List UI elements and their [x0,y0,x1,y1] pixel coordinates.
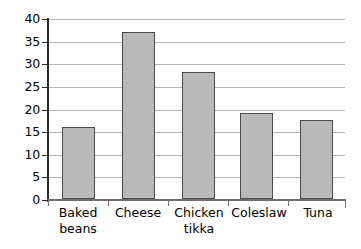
y-axis-label-20: 20 [6,104,40,117]
y-axis-label-35: 35 [6,36,40,49]
bar-baked-beans[interactable] [62,127,95,199]
y-tick-30 [42,64,48,65]
y-axis-label-40: 40 [6,13,40,26]
gridline-40 [48,19,345,20]
gridline-35 [48,42,345,43]
y-tick-5 [42,177,48,178]
bar-coleslaw[interactable] [240,113,273,199]
y-axis-label-15: 15 [6,126,40,139]
gridline-30 [48,64,345,65]
y-axis-label-0: 0 [6,194,40,207]
y-axis-label-25: 25 [6,81,40,94]
y-tick-10 [42,155,48,156]
y-axis-label-30: 30 [6,58,40,71]
y-tick-15 [42,132,48,133]
x-axis-line [47,199,346,201]
y-axis-label-5: 5 [6,171,40,184]
y-axis-label-10: 10 [6,149,40,162]
plot-area [48,19,345,200]
x-axis-label-tuna: Tuna [283,205,353,221]
y-tick-35 [42,42,48,43]
y-tick-20 [42,110,48,111]
bar-cheese[interactable] [122,32,155,199]
y-tick-40 [42,19,48,20]
y-tick-25 [42,87,48,88]
bar-chart: 40 35 30 25 20 15 10 5 0 Baked beans Che… [0,0,361,249]
bar-tuna[interactable] [300,120,333,199]
bar-chicken-tikka[interactable] [182,72,215,199]
